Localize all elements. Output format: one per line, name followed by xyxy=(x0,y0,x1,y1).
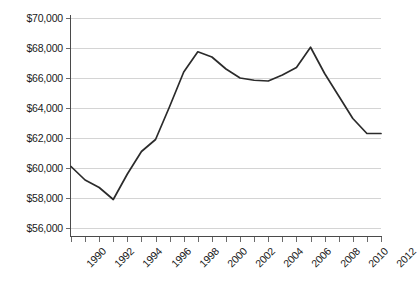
x-axis-tick xyxy=(339,237,340,242)
x-axis-tick-label: 1990 xyxy=(84,245,108,269)
y-axis-label-slot: $58,000 xyxy=(0,192,63,204)
x-axis-tick-label: 1994 xyxy=(140,245,164,269)
y-axis-tick-label: $68,000 xyxy=(26,42,63,54)
x-axis-tick-label: 2008 xyxy=(337,245,361,269)
x-axis-tick xyxy=(198,237,199,242)
x-axis-tick xyxy=(170,237,171,242)
x-axis-tick-label: 2004 xyxy=(281,245,305,269)
y-axis-label-slot: $70,000 xyxy=(0,12,63,24)
x-axis-tick xyxy=(85,237,86,242)
x-axis-tick-label: 1992 xyxy=(112,245,136,269)
x-axis-tick xyxy=(381,237,382,242)
x-axis-tick xyxy=(71,237,72,242)
gridline xyxy=(71,18,381,19)
gridline xyxy=(71,48,381,49)
x-axis-tick-label: 2010 xyxy=(365,245,389,269)
y-axis-label-slot: $56,000 xyxy=(0,222,63,234)
x-axis-tick xyxy=(156,237,157,242)
x-axis-tick xyxy=(353,237,354,242)
y-axis-tick-label: $70,000 xyxy=(26,12,63,24)
x-axis-tick xyxy=(325,237,326,242)
y-axis-tick-label: $64,000 xyxy=(26,102,63,114)
y-axis-label-slot: $60,000 xyxy=(0,162,63,174)
y-axis-tick-label: $58,000 xyxy=(26,192,63,204)
y-axis-tick-label: $66,000 xyxy=(26,72,63,84)
y-axis-tick-label: $60,000 xyxy=(26,162,63,174)
gridline xyxy=(71,78,381,79)
gridline xyxy=(71,228,381,229)
x-axis-tick xyxy=(127,237,128,242)
x-axis-tick xyxy=(141,237,142,242)
x-axis-tick-label: 2006 xyxy=(309,245,333,269)
x-axis-tick-label: 1996 xyxy=(168,245,192,269)
y-axis-label-slot: $68,000 xyxy=(0,42,63,54)
x-axis-tick xyxy=(240,237,241,242)
x-axis-tick-label: 2012 xyxy=(394,245,418,269)
x-axis-tick xyxy=(226,237,227,242)
gridline xyxy=(71,198,381,199)
y-axis-label-slot: $62,000 xyxy=(0,132,63,144)
x-axis-tick xyxy=(184,237,185,242)
x-axis-tick-label: 2002 xyxy=(253,245,277,269)
x-axis-tick xyxy=(296,237,297,242)
gridline xyxy=(71,138,381,139)
y-axis-label-slot: $64,000 xyxy=(0,102,63,114)
x-axis-tick xyxy=(99,237,100,242)
plot-area xyxy=(71,18,381,228)
y-axis-tick-label: $56,000 xyxy=(26,222,63,234)
x-axis-tick xyxy=(311,237,312,242)
gridline xyxy=(71,108,381,109)
x-axis-tick xyxy=(113,237,114,242)
x-axis-tick-label: 2000 xyxy=(225,245,249,269)
y-axis-tick-label: $62,000 xyxy=(26,132,63,144)
x-axis-tick-label: 1998 xyxy=(196,245,220,269)
x-axis-tick xyxy=(254,237,255,242)
x-axis-tick xyxy=(282,237,283,242)
y-axis-line xyxy=(70,15,71,236)
x-axis-tick xyxy=(268,237,269,242)
gridline xyxy=(71,168,381,169)
x-axis-tick xyxy=(367,237,368,242)
y-axis-label-slot: $66,000 xyxy=(0,72,63,84)
x-axis-tick xyxy=(212,237,213,242)
